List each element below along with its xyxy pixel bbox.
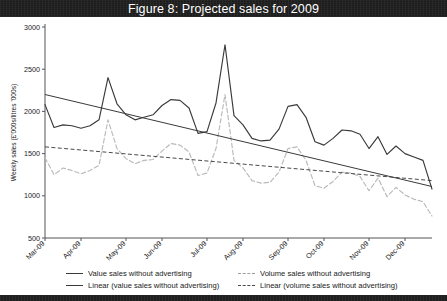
svg-text:Dec-09: Dec-09 (384, 239, 407, 262)
line-chart: 30002500200015001000500Weekly sales (£'0… (0, 17, 447, 295)
legend-swatch-solid-line-icon (66, 281, 83, 290)
svg-text:Nov-09: Nov-09 (348, 239, 371, 262)
chart-area: 30002500200015001000500Weekly sales (£'0… (0, 17, 447, 295)
svg-text:Oct-09: Oct-09 (304, 239, 326, 261)
legend-item-label: Linear (value sales without advertising) (88, 281, 219, 290)
svg-text:1500: 1500 (24, 149, 40, 158)
svg-text:2000: 2000 (24, 107, 40, 116)
svg-text:3000: 3000 (24, 23, 40, 32)
legend-column-left: Value sales without advertising Linear (… (66, 268, 219, 292)
figure-title-band: Figure 8: Projected sales for 2009 (0, 0, 447, 17)
legend-column-right: Volume sales without advertising Linear … (238, 268, 398, 292)
svg-text:Apr-09: Apr-09 (61, 239, 83, 261)
legend-item: Volume sales without advertising (238, 268, 398, 279)
legend-item: Linear (value sales without advertising) (66, 280, 219, 291)
svg-text:Aug-09: Aug-09 (222, 239, 245, 262)
chart-legend: Value sales without advertising Linear (… (0, 268, 447, 295)
legend-swatch-dashed-light-line-icon (238, 269, 255, 278)
legend-item: Linear (volume sales without advertising… (238, 280, 398, 291)
legend-item: Value sales without advertising (66, 268, 219, 279)
legend-item-label: Linear (volume sales without advertising… (260, 281, 398, 290)
svg-text:Weekly sales (£'000s/litres '0: Weekly sales (£'000s/litres '000s) (10, 84, 18, 181)
legend-swatch-solid-line-icon (66, 269, 83, 278)
figure-bottom-band (0, 295, 447, 301)
svg-text:1000: 1000 (24, 191, 40, 200)
svg-text:Sep-09: Sep-09 (267, 239, 290, 262)
legend-item-label: Value sales without advertising (88, 269, 192, 278)
figure-container: Figure 8: Projected sales for 2009 30002… (0, 0, 447, 301)
legend-swatch-dashed-dark-line-icon (238, 281, 255, 290)
svg-text:2500: 2500 (24, 65, 40, 74)
svg-text:Jul-09: Jul-09 (188, 239, 208, 259)
svg-text:May-09: May-09 (104, 239, 127, 262)
legend-item-label: Volume sales without advertising (260, 269, 370, 278)
svg-text:Jun-09: Jun-09 (142, 239, 164, 261)
page-title: Figure 8: Projected sales for 2009 (128, 2, 319, 16)
